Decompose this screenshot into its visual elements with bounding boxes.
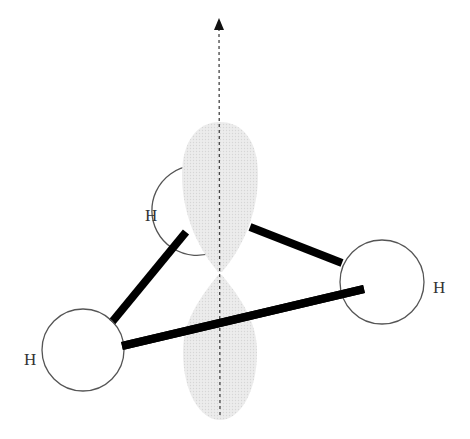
axis-arrow-icon bbox=[214, 18, 224, 30]
atom-h-left-circle bbox=[42, 309, 124, 391]
atom-h-right-label: H bbox=[433, 279, 445, 296]
atom-h-right-circle bbox=[340, 240, 424, 324]
atom-h-back-label: H bbox=[145, 207, 157, 224]
bond-back-left bbox=[112, 232, 186, 322]
molecule-diagram bbox=[0, 0, 470, 439]
atom-h-left-label: H bbox=[24, 351, 36, 368]
bond-back-right bbox=[250, 227, 342, 263]
